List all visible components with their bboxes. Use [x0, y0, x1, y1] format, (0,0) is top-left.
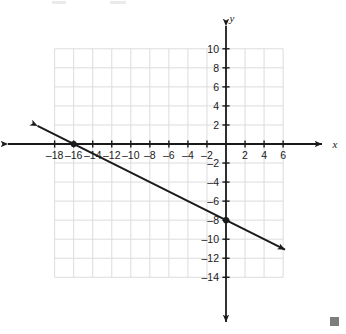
x-axis-tick-label: –8 [144, 149, 156, 161]
y-axis-tick-label: –10 [201, 233, 219, 245]
y-axis-tick-label: –14 [201, 271, 219, 283]
resize-handle-icon[interactable] [330, 317, 339, 326]
y-axis-tick-label: –4 [207, 176, 219, 188]
y-axis-tick-label: –6 [207, 195, 219, 207]
y-axis-tick-label: –12 [201, 252, 219, 264]
data-point [71, 141, 77, 147]
x-axis-label: x [332, 138, 338, 150]
x-axis-tick-label: –16 [65, 149, 83, 161]
x-axis-tick-label: 2 [242, 149, 248, 161]
grid-lines [55, 49, 283, 277]
x-axis-tick-label: –6 [163, 149, 175, 161]
y-axis-tick-label: 6 [213, 81, 219, 93]
coordinate-plane-graph: –18–16–14–12–10–8–6–4–2246 108642–2–4–6–… [0, 0, 346, 334]
data-point [223, 217, 229, 223]
x-axis-tick-label: –18 [46, 149, 64, 161]
x-axis-tick-labels: –18–16–14–12–10–8–6–4–2246 [46, 149, 286, 161]
y-axis-tick-label: 4 [213, 100, 219, 112]
x-axis-tick-label: 6 [280, 149, 286, 161]
y-axis-label: y [229, 12, 235, 24]
x-axis-tick-label: –10 [122, 149, 140, 161]
y-axis-tick-label: 2 [213, 119, 219, 131]
y-axis-tick-label: 8 [213, 62, 219, 74]
y-axis-tick-label: –2 [207, 157, 219, 169]
screenshot-root: –18–16–14–12–10–8–6–4–2246 108642–2–4–6–… [0, 0, 346, 334]
x-axis-tick-label: 4 [261, 149, 267, 161]
y-axis-tick-label: 10 [207, 43, 219, 55]
x-axis-tick-label: –12 [103, 149, 121, 161]
x-axis-tick-label: –4 [182, 149, 194, 161]
